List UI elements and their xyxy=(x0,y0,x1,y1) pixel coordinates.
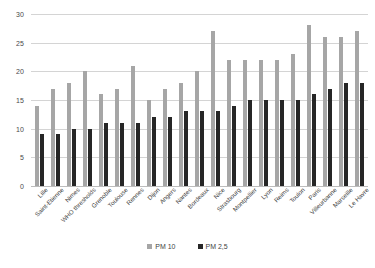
bar-group xyxy=(256,14,272,186)
bar-pm10 xyxy=(99,94,103,186)
bar-group xyxy=(208,14,224,186)
bar-pm25 xyxy=(40,134,44,186)
bar-pm10 xyxy=(211,31,215,186)
bar-pm10 xyxy=(243,60,247,186)
bar-pm10 xyxy=(35,106,39,186)
bar-group xyxy=(191,14,207,186)
bar-group xyxy=(272,14,288,186)
legend-label: PM 2,5 xyxy=(206,243,228,250)
legend-swatch-icon xyxy=(198,244,203,249)
y-axis-labels: 051015202530 xyxy=(0,14,28,186)
bar-pm25 xyxy=(344,83,348,186)
bar-group xyxy=(352,14,368,186)
bar-pm10 xyxy=(259,60,263,186)
x-axis-tick-label: Angers xyxy=(158,186,177,205)
bar-group xyxy=(79,14,95,186)
bar-pm10 xyxy=(195,71,199,186)
bar-pm25 xyxy=(72,129,76,186)
bar-group xyxy=(159,14,175,186)
bar-pm25 xyxy=(280,100,284,186)
bar-pm10 xyxy=(163,89,167,186)
bar-group xyxy=(224,14,240,186)
chart-legend: PM 10PM 2,5 xyxy=(0,243,375,250)
x-axis-tick-label: Reims xyxy=(272,186,290,204)
bar-group xyxy=(95,14,111,186)
bar-pm25 xyxy=(152,117,156,186)
legend-item[interactable]: PM 2,5 xyxy=(198,243,228,250)
bar-pm10 xyxy=(67,83,71,186)
bar-group xyxy=(336,14,352,186)
bar-pm10 xyxy=(131,66,135,186)
y-axis-tick-label: 15 xyxy=(16,97,24,104)
bar-pm10 xyxy=(355,31,359,186)
y-axis-tick-label: 5 xyxy=(20,154,24,161)
bar-group xyxy=(320,14,336,186)
bar-pm25 xyxy=(56,134,60,186)
bar-pm10 xyxy=(51,89,55,186)
bar-pm25 xyxy=(184,111,188,186)
bar-group xyxy=(304,14,320,186)
bar-pm25 xyxy=(264,100,268,186)
x-axis-tick-label: Toulon xyxy=(288,186,306,204)
bar-pm10 xyxy=(275,60,279,186)
bar-pm25 xyxy=(312,94,316,186)
bar-pm10 xyxy=(83,71,87,186)
bar-pm10 xyxy=(307,25,311,186)
bar-pm10 xyxy=(291,54,295,186)
x-axis-tick-label: Lille xyxy=(36,186,49,199)
bar-group xyxy=(288,14,304,186)
bar-pm25 xyxy=(168,117,172,186)
legend-item[interactable]: PM 10 xyxy=(147,243,175,250)
y-axis-tick-label: 10 xyxy=(16,125,24,132)
x-axis-labels: LilleSaint-EtienneNimesWHO thresholdsGre… xyxy=(31,186,368,242)
bar-group xyxy=(240,14,256,186)
y-axis-tick-label: 0 xyxy=(20,183,24,190)
bar-pm25 xyxy=(296,100,300,186)
bar-pm25 xyxy=(120,123,124,186)
bar-group xyxy=(175,14,191,186)
bar-pm25 xyxy=(104,123,108,186)
bar-pm10 xyxy=(227,60,231,186)
bar-group xyxy=(63,14,79,186)
bar-pm10 xyxy=(339,37,343,186)
legend-label: PM 10 xyxy=(155,243,175,250)
bar-group xyxy=(111,14,127,186)
y-axis-tick-label: 20 xyxy=(16,68,24,75)
bar-chart: 051015202530 LilleSaint-EtienneNimesWHO … xyxy=(0,0,375,268)
bar-pm25 xyxy=(200,111,204,186)
bar-pm25 xyxy=(328,89,332,186)
bar-pm10 xyxy=(147,100,151,186)
bar-pm25 xyxy=(216,111,220,186)
bar-group xyxy=(143,14,159,186)
bar-pm25 xyxy=(248,100,252,186)
y-axis-tick-label: 25 xyxy=(16,39,24,46)
bar-group xyxy=(47,14,63,186)
y-axis-tick-label: 30 xyxy=(16,11,24,18)
legend-swatch-icon xyxy=(147,244,152,249)
bar-pm10 xyxy=(323,37,327,186)
bar-pm10 xyxy=(115,89,119,186)
bar-pm25 xyxy=(136,123,140,186)
bar-pm10 xyxy=(179,83,183,186)
x-axis-tick-label: Rennes xyxy=(125,186,145,206)
bar-pm25 xyxy=(232,106,236,186)
bar-pm25 xyxy=(360,83,364,186)
bar-pm25 xyxy=(88,129,92,186)
bar-groups xyxy=(31,14,368,186)
bar-group xyxy=(127,14,143,186)
plot-area xyxy=(31,14,368,186)
bar-group xyxy=(31,14,47,186)
